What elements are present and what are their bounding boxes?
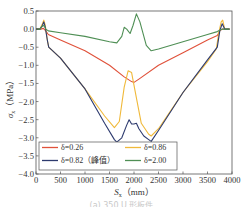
x-tick-label: 0 xyxy=(34,175,38,185)
y-tick-label: 0.0 xyxy=(23,24,34,34)
legend-label: δ=2.00 xyxy=(144,156,166,165)
x-tick-label: 2000 xyxy=(126,175,143,185)
line-chart: 0.50.0−0.5−1.0−1.5−2.0−2.5−3.0−3.5−4.0 0… xyxy=(0,0,243,207)
y-axis-label: σx（MPa） xyxy=(5,76,16,118)
y-tick-label: −0.5 xyxy=(19,42,34,52)
x-axis-label: Sx（mm） xyxy=(114,187,154,198)
y-axis: 0.50.0−0.5−1.0−1.5−2.0−2.5−3.0−3.5−4.0 xyxy=(19,6,39,179)
x-tick-label: 2500 xyxy=(150,175,167,185)
x-tick-label: 1500 xyxy=(101,175,118,185)
legend-label: δ=0.82（峰值） xyxy=(61,155,115,165)
x-tick-label: 3000 xyxy=(175,175,192,185)
figure-caption: (a) 350 U 形板件 xyxy=(0,199,243,207)
x-tick-label: 500 xyxy=(54,175,67,185)
y-tick-label: 0.5 xyxy=(23,6,34,16)
y-tick-label: −3.0 xyxy=(19,133,34,143)
plot-lines xyxy=(36,14,230,142)
y-tick-label: −3.5 xyxy=(19,151,34,161)
legend-label: δ=0.26 xyxy=(61,143,83,152)
series-line-1 xyxy=(36,20,230,136)
x-tick-label: 4000 xyxy=(224,175,241,185)
y-tick-label: −1.5 xyxy=(19,78,34,88)
series-line-3 xyxy=(36,14,230,51)
x-tick-label: 3500 xyxy=(199,175,216,185)
y-tick-label: −2.5 xyxy=(19,115,34,125)
legend: δ=0.26δ=0.86δ=0.82（峰值）δ=2.00 xyxy=(39,142,177,170)
legend-label: δ=0.86 xyxy=(144,143,166,152)
y-tick-label: −4.0 xyxy=(19,169,34,179)
x-axis: 05001000150020002500300035004000 xyxy=(34,172,241,186)
y-tick-label: −1.0 xyxy=(19,60,34,70)
x-tick-label: 1000 xyxy=(77,175,94,185)
y-tick-label: −2.0 xyxy=(19,97,34,107)
